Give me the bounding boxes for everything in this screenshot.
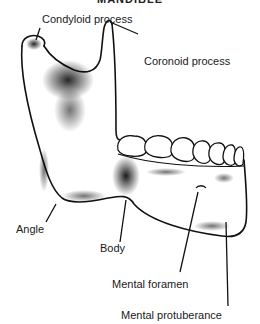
leader-mental-protuberance [226,222,228,306]
label-condyloid-process: Condyloid process [42,13,133,25]
teeth [118,136,244,166]
mandible-illustration [0,0,260,324]
leader-condyloid [36,28,40,40]
label-angle: Angle [16,223,44,235]
label-body: Body [100,242,125,254]
mental-foramen-mark [196,186,206,188]
label-mental-foramen: Mental foramen [112,278,188,290]
leader-body [120,200,126,242]
label-mental-protuberance: Mental protuberance [121,309,222,321]
leader-angle [46,204,56,222]
label-coronoid-process: Coronoid process [144,55,230,67]
